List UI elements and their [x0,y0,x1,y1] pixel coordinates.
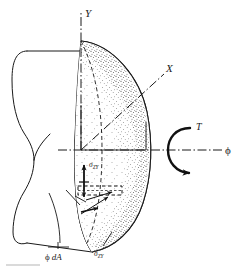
torque-label: T [196,121,203,132]
sigma-zy-lower-subscript: ZY [98,253,105,259]
area-element-label-phi: ϕ [45,252,50,262]
phi-axis-label: ϕ [225,144,231,156]
area-element-leader [48,193,69,249]
x-axis-label: X [165,62,174,74]
torsion-diagram-svg: Y X ϕ T [0,0,238,269]
caption-remnant [6,264,40,266]
figure-root: Y X ϕ T [0,0,238,269]
area-element-label-rest: dA [52,252,63,262]
y-axis-label: Y [85,7,93,19]
area-element-label: ϕdA [45,252,62,262]
